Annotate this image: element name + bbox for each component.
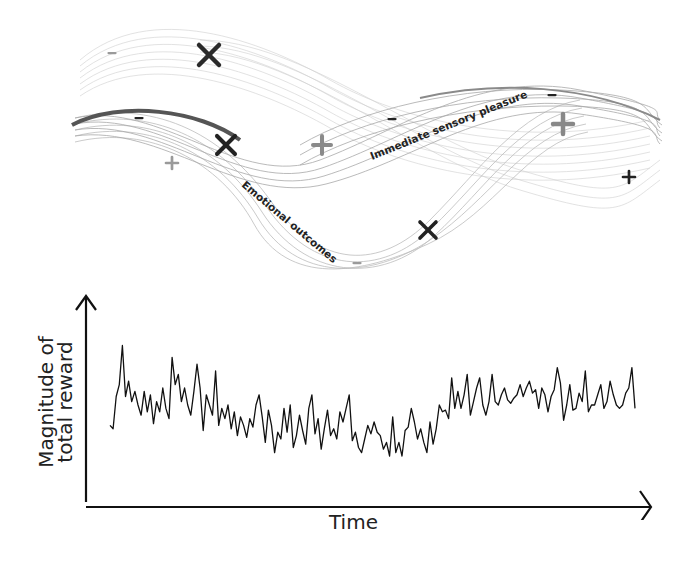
ribbon-dark-edge	[72, 111, 240, 140]
x-axis-label: Time	[329, 510, 378, 534]
reward-line	[110, 346, 635, 457]
label-immediate-sensory-pleasure: Immediate sensory pleasure	[368, 88, 528, 162]
y-axis-label: Magnitude of total reward	[18, 330, 128, 480]
label-emotional-outcomes: Emotional outcomes	[240, 178, 340, 265]
y-axis-label-line2: total reward	[53, 341, 77, 462]
ribbon-illustration: Immediate sensory pleasure Emotional out…	[0, 0, 677, 285]
x-axis-arrow-icon	[640, 491, 651, 520]
